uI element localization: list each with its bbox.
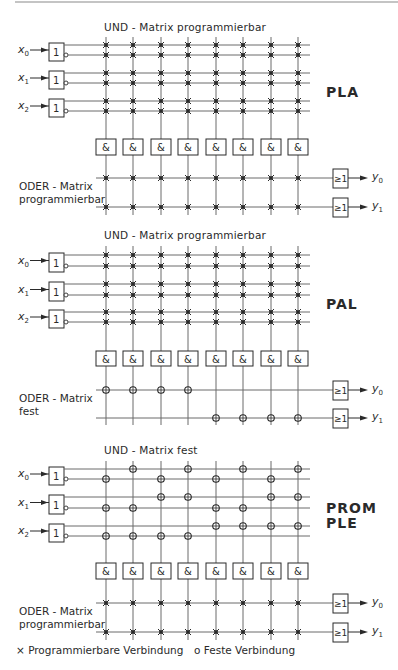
or-matrix-title: programmierbar	[19, 193, 106, 205]
fixed-connection-icon	[158, 476, 165, 483]
fixed-connection-icon	[295, 466, 302, 473]
or-gate-symbol: ≥1	[334, 599, 347, 609]
or-gate-symbol: ≥1	[334, 628, 347, 638]
device-label: PAL	[326, 296, 358, 312]
or-output-y1: ≥1y1	[96, 623, 383, 642]
legend-fixed: o Feste Verbindung	[194, 644, 295, 656]
fixed-connection-icon	[213, 523, 220, 530]
input-label-x1: x1	[17, 71, 29, 86]
arrow-icon	[41, 48, 48, 53]
fixed-connection-icon	[213, 505, 220, 512]
and-gate-symbol: &	[129, 566, 137, 577]
fixed-connection-icon	[130, 466, 137, 473]
inverter-bubble-icon	[64, 320, 68, 324]
fixed-connection-icon	[130, 505, 137, 512]
fixed-connection-icon	[213, 476, 220, 483]
and-gate-7: &	[261, 351, 281, 366]
fixed-connection-icon	[240, 466, 247, 473]
arrow-icon	[360, 416, 368, 421]
or-gate-symbol: ≥1	[334, 386, 347, 396]
and-gate-3: &	[151, 351, 171, 366]
input-label-x1: x1	[17, 496, 29, 511]
fixed-connection-icon	[103, 533, 110, 540]
and-gate-8: &	[288, 351, 308, 366]
inverter-bubble-icon	[64, 293, 68, 297]
arrow-icon	[360, 388, 368, 393]
and-gate-1: &	[96, 139, 116, 155]
section-prom: UND - Matrix festx01x11x21&&&&&&&&ODER -…	[17, 444, 383, 642]
pla-pal-prom-diagram: UND - Matrix programmierbarx01x11x21&&&&…	[0, 0, 398, 670]
buffer-gate-symbol: 1	[53, 500, 59, 511]
and-matrix-title: UND - Matrix programmierbar	[104, 229, 267, 241]
input-buffer-x0: x01	[17, 467, 310, 485]
or-output-y1: ≥1y1	[96, 198, 383, 217]
arrow-icon	[41, 529, 48, 534]
and-gate-symbol: &	[267, 566, 275, 577]
arrow-icon	[41, 287, 48, 292]
and-gate-8: &	[288, 563, 308, 579]
and-gate-2: &	[123, 351, 143, 366]
fixed-connection-icon	[240, 415, 247, 422]
and-gate-4: &	[178, 563, 198, 579]
fixed-connection-icon	[158, 387, 165, 394]
inverter-bubble-icon	[64, 81, 68, 85]
section-pla: UND - Matrix programmierbarx01x11x21&&&&…	[17, 21, 383, 217]
arrow-icon	[360, 205, 368, 210]
fixed-connection-icon	[185, 387, 192, 394]
buffer-gate-symbol: 1	[53, 471, 59, 482]
or-output-y0: ≥1y0	[96, 594, 383, 613]
and-gate-symbol: &	[212, 354, 220, 365]
input-label-x0: x0	[17, 467, 29, 482]
and-gate-2: &	[123, 139, 143, 155]
or-matrix-title: ODER - Matrix	[19, 605, 93, 617]
and-matrix-title: UND - Matrix programmierbar	[104, 21, 267, 33]
and-gate-symbol: &	[239, 354, 247, 365]
and-gate-symbol: &	[267, 354, 275, 365]
output-label-y0: y0	[371, 382, 383, 397]
and-gate-symbol: &	[129, 354, 137, 365]
and-gate-symbol: &	[267, 142, 275, 153]
or-matrix-title: fest	[19, 405, 39, 417]
output-label-y1: y1	[371, 410, 383, 425]
fixed-connection-icon	[240, 523, 247, 530]
arrow-icon	[41, 104, 48, 109]
fixed-connection-icon	[295, 415, 302, 422]
and-gate-symbol: &	[157, 354, 165, 365]
fixed-connection-icon	[130, 533, 137, 540]
buffer-gate-symbol: 1	[53, 287, 59, 298]
input-label-x2: x2	[17, 99, 29, 114]
buffer-gate-symbol: 1	[53, 75, 59, 86]
legend-programmable: × Programmierbare Verbindung	[16, 644, 183, 656]
and-gate-1: &	[96, 563, 116, 579]
or-matrix-title: programmierbar	[19, 618, 106, 630]
and-gate-5: &	[206, 139, 226, 155]
buffer-gate-symbol: 1	[53, 314, 59, 325]
and-gate-symbol: &	[294, 354, 302, 365]
and-matrix-title: UND - Matrix fest	[104, 444, 198, 456]
and-gate-symbol: &	[294, 142, 302, 153]
buffer-gate-symbol: 1	[53, 528, 59, 539]
device-label: PROM	[326, 500, 377, 516]
input-label-x0: x0	[17, 254, 29, 269]
section-pal: UND - Matrix programmierbarx01x11x21&&&&…	[17, 229, 383, 428]
arrow-icon	[360, 176, 368, 181]
fixed-connection-icon	[185, 494, 192, 501]
fixed-connection-icon	[158, 494, 165, 501]
arrow-icon	[41, 315, 48, 320]
or-matrix-title: ODER - Matrix	[19, 180, 93, 192]
or-gate-symbol: ≥1	[334, 203, 347, 213]
inverter-bubble-icon	[64, 534, 68, 538]
buffer-gate-symbol: 1	[53, 103, 59, 114]
device-label: PLE	[326, 515, 358, 531]
inverter-bubble-icon	[64, 109, 68, 113]
output-label-y0: y0	[371, 170, 383, 185]
fixed-connection-icon	[103, 476, 110, 483]
legend: × Programmierbare Verbindungo Feste Verb…	[16, 644, 295, 656]
and-gate-symbol: &	[102, 566, 110, 577]
and-gate-symbol: &	[184, 142, 192, 153]
and-gate-3: &	[151, 139, 171, 155]
input-buffer-x2: x21	[17, 524, 310, 542]
or-matrix-title: ODER - Matrix	[19, 392, 93, 404]
output-label-y1: y1	[371, 199, 383, 214]
inverter-bubble-icon	[64, 264, 68, 268]
